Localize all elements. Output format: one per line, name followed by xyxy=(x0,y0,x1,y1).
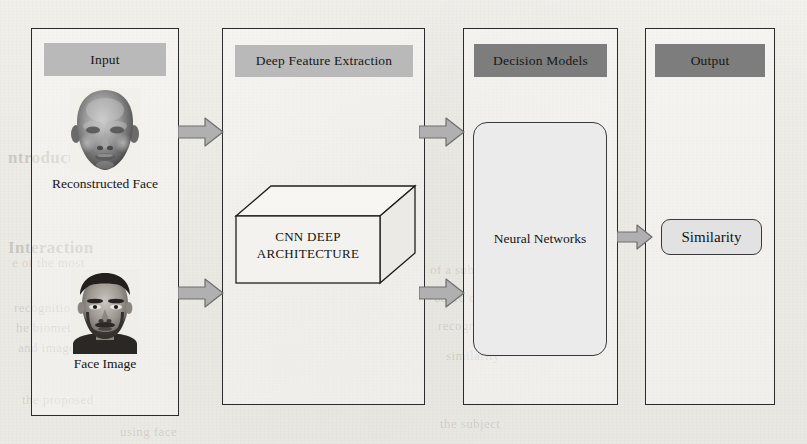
face-photo-svg xyxy=(71,270,139,354)
caption-reconstructed-face: Reconstructed Face xyxy=(31,176,179,192)
arrow-right-icon xyxy=(178,278,224,308)
arrow-right-icon xyxy=(419,278,465,308)
arrow-decision-to-output xyxy=(617,224,653,250)
reconstructed-face-image xyxy=(70,88,140,174)
panel-header-input: Input xyxy=(44,43,166,76)
panel-header-label: Input xyxy=(90,52,120,68)
panel-header-label: Output xyxy=(691,53,730,69)
panel-header-output: Output xyxy=(655,44,765,77)
arrow-right-icon xyxy=(178,117,224,147)
arrow-right-icon xyxy=(617,224,653,250)
arrow-input-top-to-dfe xyxy=(178,117,224,147)
panel-header-label: Decision Models xyxy=(493,53,588,69)
cuboid-3d-shape: CNN DEEP ARCHITECTURE xyxy=(225,176,421,294)
cuboid-label-line2: ARCHITECTURE xyxy=(236,245,380,262)
pipeline-diagram: Input xyxy=(0,0,807,444)
similarity-box: Similarity xyxy=(661,219,762,255)
arrow-dfe-top-to-decision xyxy=(419,117,465,147)
panel-header-label: Deep Feature Extraction xyxy=(256,53,393,69)
panel-header-decision-models: Decision Models xyxy=(474,44,607,77)
caption-face-image: Face Image xyxy=(31,356,179,372)
arrow-right-icon xyxy=(419,117,465,147)
arrow-dfe-bottom-to-decision xyxy=(419,278,465,308)
panel-output xyxy=(645,28,775,405)
cuboid-label-line1: CNN DEEP xyxy=(236,228,380,245)
face-photo-image xyxy=(71,270,139,354)
panel-header-deep-feature-extraction: Deep Feature Extraction xyxy=(235,45,413,77)
arrow-input-bottom-to-dfe xyxy=(178,278,224,308)
reconstructed-face-svg xyxy=(70,88,140,174)
neural-networks-label: Neural Networks xyxy=(473,231,607,247)
similarity-label: Similarity xyxy=(682,229,742,246)
